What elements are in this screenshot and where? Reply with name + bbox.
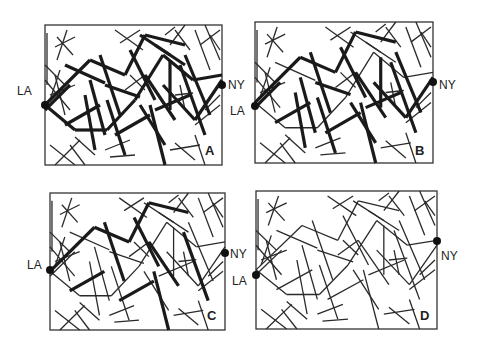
label-ny-c: NY xyxy=(230,247,247,261)
city-ny-dot xyxy=(429,78,437,86)
label-la-c: LA xyxy=(27,258,42,272)
network-figure: LA NY A LA NY B LA NY C LA NY D xyxy=(0,0,477,348)
panel-a xyxy=(41,25,226,165)
city-ny-dot xyxy=(433,237,441,245)
city-la-dot xyxy=(41,101,49,109)
panel-d xyxy=(252,191,441,329)
label-la-b: LA xyxy=(230,104,245,118)
panel-letter-d: D xyxy=(420,308,429,323)
panel-letter-b: B xyxy=(415,143,424,158)
label-la-d: LA xyxy=(232,274,247,288)
panel-letter-a: A xyxy=(205,143,215,158)
panel-c xyxy=(46,193,229,330)
city-la-dot xyxy=(251,102,259,110)
city-la-dot xyxy=(46,266,54,274)
label-ny-a: NY xyxy=(228,78,245,92)
city-ny-dot xyxy=(221,249,229,257)
city-la-dot xyxy=(252,271,260,279)
panel-b xyxy=(251,22,437,163)
label-ny-d: NY xyxy=(441,249,458,263)
label-ny-b: NY xyxy=(439,78,456,92)
panel-letter-c: C xyxy=(207,308,217,323)
label-la-a: LA xyxy=(17,84,32,98)
city-ny-dot xyxy=(218,81,226,89)
